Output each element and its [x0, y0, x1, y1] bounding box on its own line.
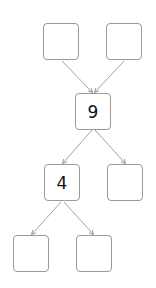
- node-bottom-left: [13, 235, 49, 272]
- node-mid-right: [107, 164, 143, 201]
- node-bottom-right: [76, 235, 112, 272]
- node-middle: 9: [75, 93, 111, 130]
- arrow-mid-left-to-bottom-right: [64, 202, 93, 234]
- arrow-top-right-to-middle: [95, 61, 124, 92]
- arrow-middle-to-mid-right: [95, 130, 125, 163]
- node-top-right: [106, 23, 142, 60]
- arrow-mid-left-to-bottom-left: [32, 202, 61, 234]
- arrow-middle-to-mid-left: [63, 130, 92, 163]
- node-mid-left: 4: [44, 164, 80, 201]
- arrow-top-left-to-middle: [62, 61, 92, 92]
- node-top-left: [43, 23, 79, 60]
